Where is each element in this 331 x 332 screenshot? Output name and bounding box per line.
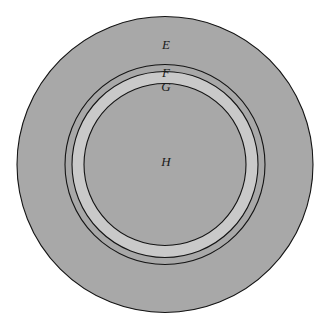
region-label-e: E	[161, 37, 170, 52]
figure-canvas: E F G H	[0, 0, 331, 332]
concentric-circles-figure: E F G H	[0, 0, 331, 332]
region-label-g: G	[161, 79, 171, 94]
region-label-h: H	[160, 154, 171, 169]
region-label-f: F	[161, 65, 171, 80]
